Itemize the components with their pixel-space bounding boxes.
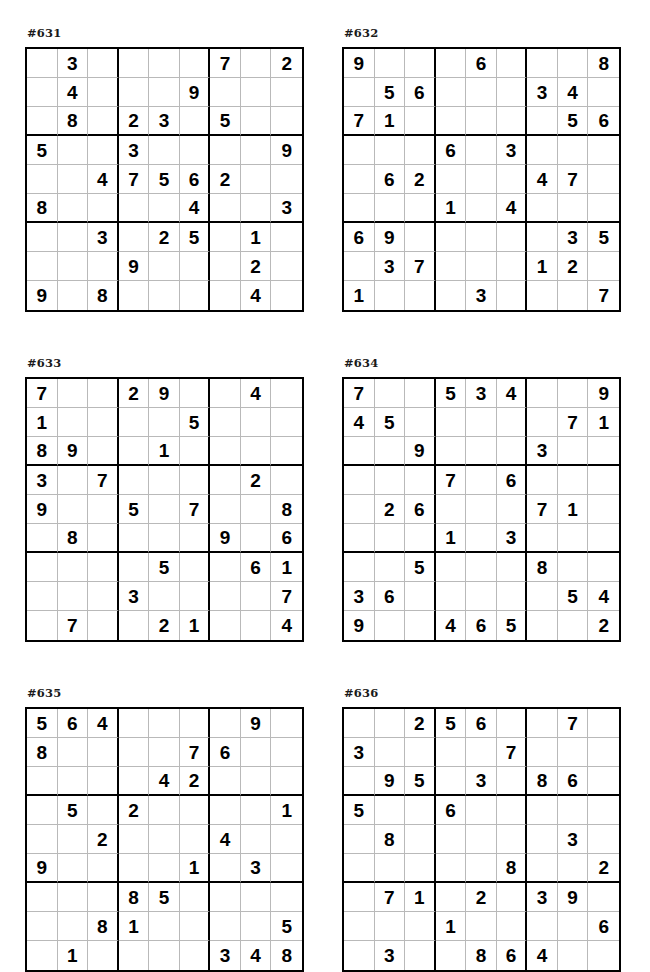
sudoku-cell-empty[interactable] bbox=[27, 524, 58, 553]
sudoku-cell-given[interactable]: 3 bbox=[466, 379, 497, 408]
sudoku-cell-empty[interactable] bbox=[210, 582, 241, 611]
sudoku-cell-empty[interactable] bbox=[588, 78, 619, 107]
sudoku-cell-empty[interactable] bbox=[497, 437, 528, 466]
sudoku-cell-empty[interactable] bbox=[271, 408, 302, 437]
sudoku-cell-given[interactable]: 3 bbox=[558, 825, 589, 854]
sudoku-cell-empty[interactable] bbox=[588, 709, 619, 738]
sudoku-cell-empty[interactable] bbox=[149, 252, 180, 281]
sudoku-cell-empty[interactable] bbox=[466, 495, 497, 524]
sudoku-cell-empty[interactable] bbox=[527, 281, 558, 310]
sudoku-cell-given[interactable]: 9 bbox=[375, 767, 406, 796]
sudoku-cell-given[interactable]: 3 bbox=[149, 107, 180, 136]
sudoku-cell-empty[interactable] bbox=[241, 582, 272, 611]
sudoku-cell-given[interactable]: 8 bbox=[588, 49, 619, 78]
sudoku-cell-empty[interactable] bbox=[27, 553, 58, 582]
sudoku-cell-empty[interactable] bbox=[558, 524, 589, 553]
sudoku-cell-empty[interactable] bbox=[375, 194, 406, 223]
sudoku-cell-given[interactable]: 6 bbox=[466, 49, 497, 78]
sudoku-cell-given[interactable]: 7 bbox=[558, 709, 589, 738]
sudoku-cell-given[interactable]: 4 bbox=[210, 825, 241, 854]
sudoku-cell-given[interactable]: 2 bbox=[405, 165, 436, 194]
sudoku-cell-given[interactable]: 2 bbox=[466, 883, 497, 912]
sudoku-cell-empty[interactable] bbox=[436, 553, 467, 582]
sudoku-cell-given[interactable]: 5 bbox=[405, 767, 436, 796]
sudoku-cell-empty[interactable] bbox=[466, 854, 497, 883]
sudoku-cell-given[interactable]: 9 bbox=[149, 379, 180, 408]
sudoku-cell-empty[interactable] bbox=[27, 912, 58, 941]
sudoku-cell-given[interactable]: 1 bbox=[180, 854, 211, 883]
sudoku-cell-given[interactable]: 9 bbox=[344, 49, 375, 78]
sudoku-cell-empty[interactable] bbox=[88, 854, 119, 883]
sudoku-cell-empty[interactable] bbox=[241, 136, 272, 165]
sudoku-cell-given[interactable]: 8 bbox=[58, 107, 89, 136]
sudoku-cell-given[interactable]: 9 bbox=[344, 611, 375, 640]
sudoku-cell-given[interactable]: 8 bbox=[88, 912, 119, 941]
sudoku-cell-empty[interactable] bbox=[588, 437, 619, 466]
sudoku-cell-empty[interactable] bbox=[241, 165, 272, 194]
sudoku-cell-empty[interactable] bbox=[436, 165, 467, 194]
sudoku-cell-empty[interactable] bbox=[436, 854, 467, 883]
sudoku-cell-empty[interactable] bbox=[405, 281, 436, 310]
sudoku-cell-empty[interactable] bbox=[436, 49, 467, 78]
sudoku-cell-given[interactable]: 7 bbox=[588, 281, 619, 310]
sudoku-cell-empty[interactable] bbox=[88, 136, 119, 165]
sudoku-cell-empty[interactable] bbox=[180, 252, 211, 281]
sudoku-cell-empty[interactable] bbox=[466, 825, 497, 854]
sudoku-cell-empty[interactable] bbox=[497, 252, 528, 281]
sudoku-cell-empty[interactable] bbox=[27, 49, 58, 78]
sudoku-cell-given[interactable]: 9 bbox=[271, 136, 302, 165]
sudoku-cell-empty[interactable] bbox=[180, 883, 211, 912]
sudoku-cell-given[interactable]: 7 bbox=[405, 252, 436, 281]
sudoku-cell-empty[interactable] bbox=[88, 611, 119, 640]
sudoku-cell-empty[interactable] bbox=[497, 107, 528, 136]
sudoku-cell-empty[interactable] bbox=[375, 136, 406, 165]
sudoku-cell-empty[interactable] bbox=[119, 281, 150, 310]
sudoku-cell-empty[interactable] bbox=[466, 136, 497, 165]
sudoku-cell-given[interactable]: 1 bbox=[436, 194, 467, 223]
sudoku-cell-empty[interactable] bbox=[180, 437, 211, 466]
sudoku-cell-given[interactable]: 7 bbox=[344, 107, 375, 136]
sudoku-cell-given[interactable]: 1 bbox=[588, 408, 619, 437]
sudoku-cell-given[interactable]: 3 bbox=[27, 466, 58, 495]
sudoku-cell-given[interactable]: 5 bbox=[436, 709, 467, 738]
sudoku-cell-given[interactable]: 6 bbox=[405, 495, 436, 524]
sudoku-cell-empty[interactable] bbox=[27, 582, 58, 611]
sudoku-cell-empty[interactable] bbox=[436, 941, 467, 970]
sudoku-cell-empty[interactable] bbox=[588, 796, 619, 825]
sudoku-cell-empty[interactable] bbox=[527, 709, 558, 738]
sudoku-cell-empty[interactable] bbox=[344, 524, 375, 553]
sudoku-cell-empty[interactable] bbox=[241, 767, 272, 796]
sudoku-cell-given[interactable]: 4 bbox=[241, 281, 272, 310]
sudoku-cell-given[interactable]: 4 bbox=[149, 767, 180, 796]
sudoku-cell-empty[interactable] bbox=[497, 767, 528, 796]
sudoku-cell-given[interactable]: 5 bbox=[271, 912, 302, 941]
sudoku-cell-given[interactable]: 4 bbox=[88, 165, 119, 194]
sudoku-cell-empty[interactable] bbox=[119, 767, 150, 796]
sudoku-cell-given[interactable]: 7 bbox=[527, 495, 558, 524]
sudoku-cell-empty[interactable] bbox=[88, 524, 119, 553]
sudoku-cell-given[interactable]: 5 bbox=[180, 408, 211, 437]
sudoku-cell-empty[interactable] bbox=[405, 107, 436, 136]
sudoku-cell-empty[interactable] bbox=[436, 825, 467, 854]
sudoku-cell-empty[interactable] bbox=[210, 408, 241, 437]
sudoku-cell-empty[interactable] bbox=[375, 437, 406, 466]
sudoku-cell-empty[interactable] bbox=[497, 825, 528, 854]
sudoku-cell-given[interactable]: 3 bbox=[497, 524, 528, 553]
sudoku-cell-empty[interactable] bbox=[344, 883, 375, 912]
sudoku-cell-empty[interactable] bbox=[88, 767, 119, 796]
sudoku-cell-given[interactable]: 2 bbox=[558, 252, 589, 281]
sudoku-cell-empty[interactable] bbox=[210, 78, 241, 107]
sudoku-cell-empty[interactable] bbox=[149, 136, 180, 165]
sudoku-cell-empty[interactable] bbox=[436, 582, 467, 611]
sudoku-cell-empty[interactable] bbox=[344, 194, 375, 223]
sudoku-cell-empty[interactable] bbox=[344, 709, 375, 738]
sudoku-cell-given[interactable]: 5 bbox=[58, 796, 89, 825]
sudoku-cell-given[interactable]: 3 bbox=[527, 883, 558, 912]
sudoku-cell-empty[interactable] bbox=[88, 194, 119, 223]
sudoku-cell-given[interactable]: 2 bbox=[88, 825, 119, 854]
sudoku-cell-empty[interactable] bbox=[527, 223, 558, 252]
sudoku-cell-given[interactable]: 4 bbox=[241, 379, 272, 408]
sudoku-cell-empty[interactable] bbox=[149, 281, 180, 310]
sudoku-cell-empty[interactable] bbox=[271, 854, 302, 883]
sudoku-cell-empty[interactable] bbox=[527, 136, 558, 165]
